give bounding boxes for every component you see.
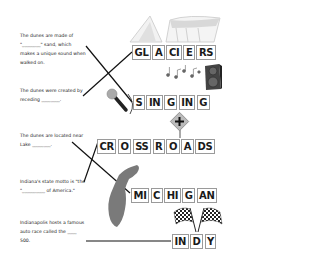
answer-michigan: MI C HI G AN [131,188,217,203]
letter-tile[interactable]: O [166,139,179,154]
letter-tile[interactable]: DS [195,139,215,154]
letter-tile[interactable]: G [197,95,210,110]
glacier-icon [128,12,228,44]
answer-indy: IN D Y [172,234,216,249]
letter-tile[interactable]: MI [131,188,149,203]
microphone-icon [106,88,136,118]
letter-tile[interactable]: IN [146,95,163,110]
answer-crossroads: CR O SS R O A DS [97,139,215,154]
letter-tile[interactable]: D [190,234,203,249]
letter-tile[interactable]: G [182,188,195,203]
letter-tile[interactable]: A [181,139,193,154]
letter-tile[interactable]: C [151,188,163,203]
crossroads-sign-icon [169,112,191,138]
letter-tile[interactable]: RS [196,45,215,60]
letter-tile[interactable]: G [164,95,177,110]
letter-tile[interactable]: AN [197,188,218,203]
letter-tile[interactable]: IN [179,95,196,110]
letter-tile[interactable]: O [118,139,131,154]
letter-tile[interactable]: IN [172,234,189,249]
letter-tile[interactable]: E [183,45,195,60]
speaker-icon [203,63,223,91]
letter-tile[interactable]: HI [164,188,181,203]
letter-tile[interactable]: Y [205,234,217,249]
letter-tile[interactable]: GL [132,45,151,60]
letter-tile[interactable]: CR [97,139,116,154]
letter-tile[interactable]: CI [166,45,181,60]
answer-singing: S IN G IN G [133,95,210,110]
checkered-flags-icon [172,206,224,234]
music-notes-icon [164,64,202,80]
letter-tile[interactable]: A [152,45,164,60]
connector-line [84,142,98,182]
letter-tile[interactable]: S [133,95,145,110]
answer-glaciers: GL A CI E RS [132,45,216,60]
letter-tile[interactable]: SS [133,139,151,154]
letter-tile[interactable]: R [153,139,165,154]
